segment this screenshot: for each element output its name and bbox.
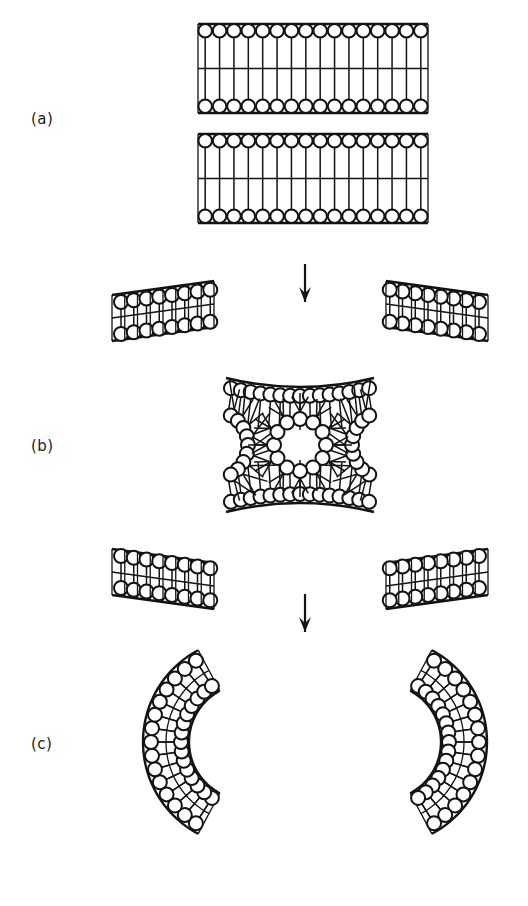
lipid-tail-inner-leaflet: [195, 680, 200, 686]
curved-bilayer-left: [143, 650, 220, 834]
lipid-head-upper: [270, 24, 284, 38]
panel-label-c: (c): [31, 735, 52, 753]
wing-bottom-left: [112, 549, 217, 609]
lipid-head-upper: [328, 134, 342, 148]
lipid-head-inner: [408, 590, 422, 604]
panel-label-b: (b): [31, 437, 54, 455]
lipid-head-outer: [165, 556, 179, 570]
lipid-head-upper: [385, 134, 399, 148]
micelle-lipid-head: [306, 461, 320, 475]
lipid-head-outer-leaflet: [144, 735, 158, 749]
lipid-tail-outer-leaflet: [461, 765, 469, 767]
lipid-tail-inner-leaflet: [449, 773, 456, 776]
wing-top-right: [383, 281, 488, 341]
lipid-tail-inner-leaflet: [455, 730, 463, 731]
lipid-head-outer: [383, 561, 397, 575]
lipid-head-lower: [313, 99, 327, 113]
lipid-head-outer-leaflet: [468, 762, 482, 776]
lipid-head-lower: [400, 99, 414, 113]
lipid-head-inner: [165, 588, 179, 602]
lipid-head-lower: [385, 209, 399, 223]
lipid-head-lower: [270, 99, 284, 113]
lipid-head-inner: [140, 585, 154, 599]
lipid-head-outer: [203, 561, 217, 575]
lipid-head-outer-leaflet: [189, 654, 203, 668]
lipid-head-upper: [313, 24, 327, 38]
lipid-tail-outer-leaflet: [435, 674, 440, 680]
lipid-head-lower: [414, 99, 428, 113]
panel-a-bilayers: [198, 24, 428, 223]
lipid-tail-facing: [258, 400, 260, 427]
lipid-head-lower: [227, 99, 241, 113]
wing-bottom-right: [383, 549, 488, 609]
micelle-lipid-head: [293, 464, 307, 478]
lipid-head-outer: [472, 327, 486, 341]
lipid-head-outer-leaflet: [148, 708, 162, 722]
lipid-head-outer-leaflet: [472, 735, 486, 749]
lipid-head-outer: [421, 556, 435, 570]
lipid-head-inner: [127, 583, 141, 597]
lipid-head-lower: [299, 209, 313, 223]
lipid-head-lower: [414, 209, 428, 223]
micelle-lipid-head: [316, 425, 330, 439]
lipid-head-lower: [270, 209, 284, 223]
lipid-head-inner: [383, 593, 397, 607]
lipid-head-upper: [198, 24, 212, 38]
lipid-head-upper: [256, 24, 270, 38]
lipid-head-inner: [472, 295, 486, 309]
lipid-head-lower: [342, 209, 356, 223]
lipid-tail-inner-leaflet: [169, 719, 177, 721]
lipid-head-outer-leaflet: [471, 749, 485, 763]
lipid-head-outer: [434, 554, 448, 568]
lipid-head-lower: [242, 209, 256, 223]
lipid-tail-inner-leaflet: [186, 790, 192, 795]
lipid-head-lower: [213, 209, 227, 223]
lipid-tail-inner-leaflet: [438, 689, 444, 694]
lipid-tail-inner-leaflet: [195, 798, 200, 804]
lipid-head-lower: [400, 209, 414, 223]
lipid-head-inner: [114, 581, 128, 595]
lipid-tail-inner-leaflet: [453, 719, 461, 721]
lipid-head-outer: [127, 325, 141, 339]
lipid-head-lower: [198, 99, 212, 113]
lipid-tail-outer-leaflet: [435, 804, 440, 810]
lipid-head-inner: [165, 288, 179, 302]
lipid-head-upper: [285, 134, 299, 148]
lipid-head-outer: [434, 322, 448, 336]
lipid-head-outer: [152, 554, 166, 568]
lipid-tail-inner-leaflet: [444, 782, 451, 786]
inverted-micelle: [248, 393, 352, 497]
lipid-tail-outer-leaflet: [457, 705, 464, 708]
lipid-head-outer-leaflet: [427, 816, 441, 830]
lipid-tail-outer-leaflet: [457, 776, 464, 779]
arrow-b-to-c: [299, 594, 311, 632]
lipid-head-outer: [140, 553, 154, 567]
lipid-head-upper: [242, 24, 256, 38]
lipid-head-lower: [371, 209, 385, 223]
lipid-head-outer: [383, 315, 397, 329]
figure-root: (a) (b) (c): [0, 0, 528, 906]
panel-b-fusion-intermediate: [112, 281, 488, 609]
lipid-head-inner: [114, 295, 128, 309]
lipid-head-inner: [191, 285, 205, 299]
lipid-tail-outer-leaflet: [451, 786, 458, 790]
lipid-head-outer: [178, 318, 192, 332]
lipid-head-facing: [362, 495, 376, 509]
lipid-head-inner: [383, 283, 397, 297]
lipid-head-outer: [459, 325, 473, 339]
arrow-a-to-b: [299, 264, 311, 302]
lipid-tail-inner-leaflet: [167, 730, 175, 731]
lipid-head-outer: [396, 317, 410, 331]
lipid-head-upper: [371, 134, 385, 148]
lipid-head-upper: [213, 24, 227, 38]
lipid-head-lower: [313, 209, 327, 223]
lipid-head-lower: [299, 99, 313, 113]
lipid-tail-inner-leaflet: [444, 698, 451, 702]
lipid-head-outer-leaflet: [471, 721, 485, 735]
lipid-head-inner: [178, 286, 192, 300]
micelle-lipid-head: [293, 412, 307, 426]
micelle-lipid-head: [319, 438, 333, 452]
panel-label-a: (a): [31, 110, 53, 128]
lipid-head-upper: [385, 24, 399, 38]
lipid-tail-inner-leaflet: [173, 773, 180, 776]
